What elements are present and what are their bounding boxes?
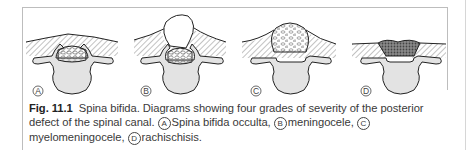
spinal-cord	[168, 48, 192, 64]
vertebra	[251, 56, 332, 94]
svg-text:A: A	[35, 86, 41, 96]
caption-item-d: rachischisis.	[142, 131, 202, 143]
caption-item-b: meningocele,	[288, 116, 354, 128]
figure-caption: Fig. 11.1 Spina bifida. Diagrams showing…	[29, 101, 449, 145]
panel-b: B	[134, 15, 226, 96]
panel-d: D	[352, 40, 446, 96]
spina-bifida-diagram: A B C D	[0, 0, 473, 100]
panel-a: A	[26, 34, 118, 96]
panel-c: C	[242, 23, 336, 96]
neural-placode-sac	[271, 23, 308, 52]
panel-label-d: D	[361, 86, 371, 96]
caption-marker-c: C	[357, 117, 370, 130]
caption-marker-a: A	[158, 117, 171, 130]
panel-label-a: A	[33, 86, 43, 96]
caption-item-a: Spina bifida occulta,	[172, 116, 271, 128]
caption-marker-b: B	[274, 117, 287, 130]
spinal-cord	[58, 46, 86, 62]
caption-item-c: myelomeningocele,	[29, 131, 125, 143]
caption-marker-d: D	[128, 132, 141, 145]
svg-text:B: B	[143, 86, 149, 96]
panel-label-c: C	[251, 86, 261, 96]
svg-text:C: C	[253, 86, 259, 96]
exposed-neural-tissue	[378, 40, 420, 56]
panel-label-b: B	[141, 86, 151, 96]
caption-label: Fig. 11.1	[29, 102, 73, 114]
svg-text:D: D	[363, 86, 369, 96]
vertebra	[361, 56, 442, 94]
